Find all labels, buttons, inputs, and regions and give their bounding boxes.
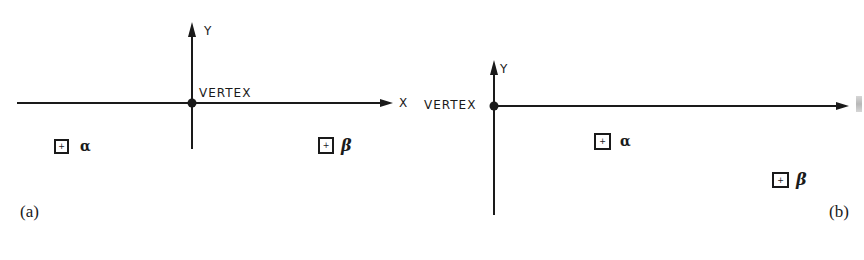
cropped-x-label-fragment: [856, 96, 862, 112]
y-axis-label: Y: [204, 25, 212, 37]
x-axis-arrow-icon: [380, 99, 393, 107]
alpha-label: α: [620, 134, 631, 148]
beta-label: β: [341, 138, 352, 154]
panel-a-caption: (a): [20, 203, 39, 220]
x-axis-arrow-icon: [836, 102, 849, 110]
vertex-label: VERTEX: [199, 87, 251, 99]
source-box-beta-icon: +: [318, 137, 334, 154]
panel-b-axes: [490, 60, 850, 215]
y-axis-arrow-icon: [490, 60, 498, 75]
alpha-label: α: [80, 139, 91, 153]
plus-marker-icon: +: [599, 138, 606, 146]
figure: Y VERTEX X + α + β (a) Y VERTEX + α + β …: [0, 0, 864, 260]
panel-b-caption: (b): [829, 203, 849, 220]
vertex-dot-icon: [188, 99, 197, 108]
plus-marker-icon: +: [777, 177, 784, 185]
vertex-dot-icon: [490, 102, 499, 111]
vertex-label: VERTEX: [424, 99, 476, 111]
plus-marker-icon: +: [323, 142, 330, 150]
beta-label: β: [796, 172, 807, 188]
source-box-alpha-icon: +: [54, 139, 69, 154]
y-axis-arrow-icon: [188, 22, 196, 37]
axes-drawing: [0, 0, 864, 260]
x-axis-label: X: [399, 97, 408, 109]
source-box-alpha-icon: +: [594, 133, 611, 150]
source-box-beta-icon: +: [772, 172, 789, 188]
y-axis-label: Y: [500, 63, 508, 75]
plus-marker-icon: +: [58, 143, 65, 151]
